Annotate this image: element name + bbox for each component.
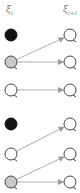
transition-arrow (16, 157, 63, 179)
state-node-black-icon (5, 29, 17, 41)
state-node-black-icon (5, 118, 17, 130)
next-state-node-icon (64, 118, 76, 131)
edges (16, 38, 63, 182)
next-state-node-icon (64, 56, 76, 69)
next-state-node-icon (64, 148, 76, 161)
transition-diagram (0, 0, 80, 193)
next-state-node-icon (64, 84, 76, 97)
next-state-node-icon (64, 176, 76, 189)
state-node-white-icon (5, 84, 17, 97)
state-node-white-icon (5, 148, 17, 161)
transition-arrow (16, 127, 63, 151)
nodes (5, 29, 76, 189)
state-node-gray-icon (5, 56, 17, 69)
next-state-node-icon (64, 29, 76, 42)
state-node-gray-icon (5, 176, 17, 189)
transition-arrow (16, 38, 63, 60)
